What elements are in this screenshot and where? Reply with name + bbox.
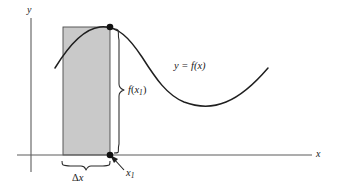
delta-symbol: Δ: [72, 172, 79, 183]
width-brace-label: Δx: [72, 173, 83, 184]
height-label-close-paren: ): [143, 84, 147, 95]
curve-equation-label: y = f(x): [174, 61, 206, 72]
width-brace: [62, 161, 110, 170]
peak-point-marker: [107, 24, 114, 31]
point-x1-label: x1: [126, 168, 134, 179]
width-label-variable: x: [79, 172, 84, 183]
base-point-marker: [107, 152, 114, 159]
figure-svg: [0, 0, 339, 195]
height-brace: [114, 29, 124, 153]
y-axis-label: y: [27, 5, 31, 15]
x-axis-label: x: [316, 149, 320, 159]
point-label-subscript: 1: [131, 171, 135, 180]
figure-canvas: y x y = f(x) f(x1) Δx x1: [0, 0, 339, 195]
height-brace-label: f(x1): [128, 85, 146, 96]
